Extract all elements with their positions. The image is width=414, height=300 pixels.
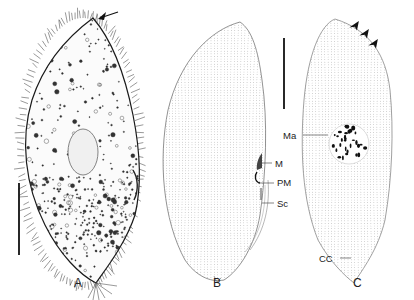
basal-body bbox=[201, 152, 202, 153]
basal-body bbox=[367, 176, 368, 177]
basal-body bbox=[393, 205, 394, 206]
basal-body bbox=[165, 100, 166, 101]
basal-body bbox=[172, 124, 173, 125]
basal-body bbox=[395, 270, 396, 271]
basal-body bbox=[194, 259, 195, 260]
basal-body bbox=[389, 23, 390, 24]
basal-body bbox=[311, 59, 312, 60]
basal-body bbox=[338, 116, 339, 117]
basal-body bbox=[166, 30, 167, 31]
basal-body bbox=[158, 222, 159, 223]
basal-body bbox=[169, 108, 170, 109]
basal-body bbox=[254, 241, 255, 242]
basal-body bbox=[243, 189, 244, 190]
basal-body bbox=[319, 155, 320, 156]
basal-body bbox=[386, 122, 387, 123]
basal-body bbox=[234, 228, 235, 229]
basal-body bbox=[365, 20, 366, 21]
basal-body bbox=[324, 270, 325, 271]
basal-body bbox=[233, 155, 234, 156]
basal-body bbox=[240, 116, 241, 117]
basal-body bbox=[188, 181, 189, 182]
basal-body bbox=[191, 225, 192, 226]
basal-body bbox=[236, 147, 237, 148]
basal-body bbox=[380, 75, 381, 76]
basal-body bbox=[318, 215, 319, 216]
basal-body bbox=[217, 35, 218, 36]
basal-body bbox=[348, 280, 349, 281]
basal-body bbox=[383, 215, 384, 216]
basal-body bbox=[198, 217, 199, 218]
granule bbox=[62, 206, 64, 208]
basal-body bbox=[179, 126, 180, 127]
basal-body bbox=[265, 173, 266, 174]
basal-body bbox=[354, 103, 355, 104]
basal-body bbox=[270, 225, 271, 226]
basal-body bbox=[341, 236, 342, 237]
basal-body bbox=[392, 25, 393, 26]
basal-body bbox=[271, 53, 272, 54]
basal-body bbox=[208, 100, 209, 101]
basal-body bbox=[211, 157, 212, 158]
basal-body bbox=[163, 113, 164, 114]
basal-body bbox=[221, 40, 222, 41]
basal-body bbox=[386, 184, 387, 185]
basal-body bbox=[380, 205, 381, 206]
basal-body bbox=[374, 59, 375, 60]
basal-body bbox=[195, 118, 196, 119]
basal-body bbox=[163, 40, 164, 41]
basal-body bbox=[194, 74, 195, 75]
basal-body bbox=[246, 129, 247, 130]
basal-body bbox=[201, 189, 202, 190]
basal-body bbox=[308, 220, 309, 221]
basal-body bbox=[263, 100, 264, 101]
basal-body bbox=[240, 111, 241, 112]
basal-body bbox=[188, 82, 189, 83]
basal-body bbox=[237, 105, 238, 106]
basal-body bbox=[311, 244, 312, 245]
basal-body bbox=[211, 87, 212, 88]
basal-body bbox=[354, 241, 355, 242]
basal-body bbox=[221, 90, 222, 91]
basal-body bbox=[338, 46, 339, 47]
basal-body bbox=[233, 170, 234, 171]
basal-body bbox=[371, 59, 372, 60]
basal-body bbox=[160, 30, 161, 31]
basal-body bbox=[198, 215, 199, 216]
basal-body bbox=[304, 254, 305, 255]
basal-body bbox=[253, 209, 254, 210]
basal-body bbox=[348, 70, 349, 71]
basal-body bbox=[163, 131, 164, 132]
granule bbox=[44, 201, 45, 202]
basal-body bbox=[361, 194, 362, 195]
basal-body bbox=[367, 127, 368, 128]
basal-body bbox=[260, 82, 261, 83]
basal-body bbox=[328, 116, 329, 117]
basal-body bbox=[354, 41, 355, 42]
basal-body bbox=[198, 191, 199, 192]
basal-body bbox=[364, 124, 365, 125]
basal-body bbox=[357, 210, 358, 211]
basal-body bbox=[228, 280, 229, 281]
basal-body bbox=[368, 272, 369, 273]
basal-body bbox=[207, 238, 208, 239]
basal-body bbox=[318, 62, 319, 63]
basal-body bbox=[258, 272, 259, 273]
basal-body bbox=[249, 191, 250, 192]
basal-body bbox=[250, 111, 251, 112]
basal-body bbox=[328, 148, 329, 149]
basal-body bbox=[234, 230, 235, 231]
basal-body bbox=[182, 92, 183, 93]
basal-body bbox=[377, 200, 378, 201]
basal-body bbox=[386, 202, 387, 203]
basal-body bbox=[299, 88, 300, 89]
basal-body bbox=[192, 126, 193, 127]
granule bbox=[100, 146, 101, 147]
basal-body bbox=[198, 152, 199, 153]
basal-body bbox=[266, 225, 267, 226]
basal-body bbox=[259, 191, 260, 192]
basal-body bbox=[354, 166, 355, 167]
basal-body bbox=[344, 262, 345, 263]
basal-body bbox=[351, 200, 352, 201]
basal-body bbox=[338, 62, 339, 63]
